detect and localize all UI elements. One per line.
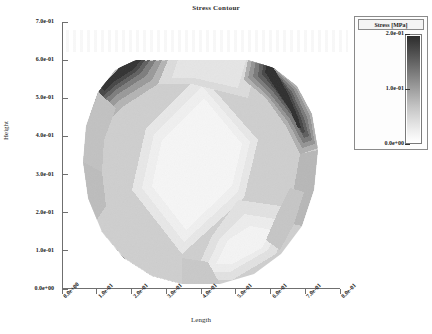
y-tick-label: 2.0e-01	[36, 209, 54, 215]
y-tick-label: 7.0e-01	[36, 18, 54, 24]
y-tick-mark	[62, 98, 68, 99]
legend-panel: Stress [MPa] 2.0e-011.0e-010.0e+00	[354, 16, 428, 150]
stress-contour-figure: Stress Contour	[0, 0, 432, 334]
y-tick-mark	[62, 212, 68, 213]
colorbar-tick-label: 0.0e+00	[384, 140, 404, 146]
y-tick-mark	[62, 136, 68, 137]
x-axis-label: Length	[62, 316, 340, 324]
colorbar-tick-mark	[405, 144, 410, 145]
colorbar-tick-label: 1.0e-01	[386, 85, 404, 91]
colorbar-tick-label: 2.0e-01	[386, 30, 404, 36]
legend-title-box: Stress [MPa]	[358, 19, 424, 30]
y-axis-label: Height	[2, 121, 10, 140]
y-tick-label: 5.0e-01	[36, 94, 54, 100]
plot-area: 0.0e+001.0e-012.0e-013.0e-014.0e-015.0e-…	[62, 22, 340, 289]
y-tick-mark	[62, 174, 68, 175]
x-tick-label: 8.0e-01	[340, 282, 357, 299]
colorbar-tick-mark	[405, 34, 410, 35]
y-tick-label: 1.0e-01	[36, 247, 54, 253]
y-axis-line	[62, 22, 63, 289]
y-tick-mark	[62, 22, 68, 23]
colorbar-tick-mark	[405, 89, 410, 90]
contour-bands	[62, 22, 340, 289]
contour-plot-svg	[62, 22, 340, 289]
page-title: Stress Contour	[0, 4, 432, 12]
contour-field	[62, 22, 340, 289]
y-tick-mark	[62, 250, 68, 251]
y-tick-label: 4.0e-01	[36, 132, 54, 138]
y-tick-label: 0.0e+00	[34, 285, 54, 291]
y-tick-label: 3.0e-01	[36, 171, 54, 177]
y-tick-mark	[62, 60, 68, 61]
y-tick-label: 6.0e-01	[36, 56, 54, 62]
legend-title: Stress [MPa]	[359, 20, 423, 29]
